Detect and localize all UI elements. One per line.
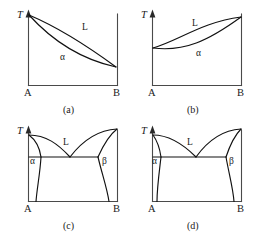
phase-label-liquid-d: L — [187, 138, 193, 148]
phase-label-liquid-a: L — [82, 23, 88, 33]
y-axis-label-c: T — [17, 126, 23, 137]
t-axis-arrow-b — [150, 10, 156, 18]
phase-label-alpha-b: α — [196, 49, 201, 59]
solidus-curve-a — [29, 15, 116, 67]
solvus-alpha-c — [36, 157, 41, 202]
solidus-left-d — [153, 135, 161, 157]
phase-label-alpha-d: α — [152, 157, 157, 167]
solvus-alpha-d — [157, 157, 161, 202]
phase-label-beta-d: β — [229, 157, 234, 167]
liquidus-right-c — [70, 129, 117, 157]
phase-diagram-figure: L α T A B (a) L α T A B (b) — [0, 0, 260, 238]
t-axis-arrow-d — [150, 126, 156, 134]
liquidus-curve-a — [29, 15, 116, 67]
t-axis-arrow-c — [26, 126, 32, 134]
panel-b: L α T A B (b) — [144, 8, 254, 103]
solidus-right-c — [98, 129, 117, 157]
panel-a: L α T A B (a) — [20, 8, 130, 103]
right-corner-label-d: B — [237, 204, 244, 215]
left-corner-label-a: A — [24, 88, 32, 99]
caption-a: (a) — [63, 105, 74, 115]
y-axis-label-a: T — [17, 10, 23, 21]
left-corner-label-b: A — [148, 88, 156, 99]
panel-c: L α β T A B (c) — [20, 124, 130, 219]
panel-d: L α β T A B (d) — [144, 124, 254, 219]
caption-c: (c) — [63, 221, 74, 231]
phase-label-alpha-c: α — [30, 157, 35, 167]
phase-label-liquid-c: L — [63, 138, 69, 148]
right-corner-label-a: B — [113, 88, 120, 99]
solidus-left-c — [29, 135, 41, 157]
left-corner-label-c: A — [24, 204, 32, 215]
left-corner-label-d: A — [148, 204, 156, 215]
y-axis-label-d: T — [141, 126, 147, 137]
phase-label-liquid-b: L — [192, 19, 198, 29]
caption-b: (b) — [187, 105, 199, 115]
liquidus-right-d — [196, 129, 241, 157]
y-axis-label-b: T — [141, 10, 147, 21]
caption-d: (d) — [187, 221, 199, 231]
right-corner-label-b: B — [237, 88, 244, 99]
solidus-right-d — [226, 129, 241, 157]
phase-label-beta-c: β — [102, 157, 107, 167]
phase-label-alpha-a: α — [60, 53, 65, 63]
right-corner-label-c: B — [113, 204, 120, 215]
